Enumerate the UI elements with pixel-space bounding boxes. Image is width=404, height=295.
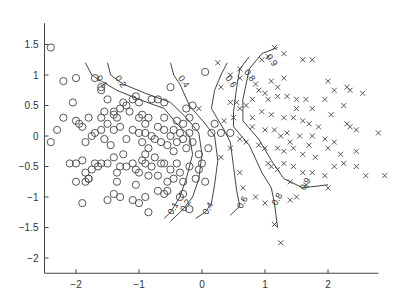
cross-marker [332, 164, 337, 169]
circle-marker [123, 135, 130, 142]
cross-marker [300, 152, 305, 157]
contour-label: 0.2 [113, 73, 128, 89]
cross-marker [250, 115, 255, 120]
cross-marker [266, 97, 271, 102]
cross-marker [275, 146, 280, 151]
cross-marker [348, 88, 353, 93]
circle-marker [69, 99, 76, 106]
circle-marker [101, 108, 108, 115]
cross-marker [263, 91, 268, 96]
circle-marker [113, 178, 120, 185]
circle-marker [104, 96, 111, 103]
data-points [47, 44, 387, 245]
circle-marker [205, 145, 212, 152]
cross-marker [288, 198, 293, 203]
circle-marker [117, 105, 124, 112]
cross-marker [341, 161, 346, 166]
x-tick-label: 1 [262, 279, 268, 290]
cross-marker [237, 170, 242, 175]
cross-marker [215, 60, 220, 65]
circle-marker [217, 129, 224, 136]
y-tick-label: 1.5 [25, 39, 39, 50]
contour-label: 0.4 [176, 73, 191, 89]
circle-marker [211, 120, 218, 127]
cross-marker [244, 140, 249, 145]
circle-marker [167, 84, 174, 91]
cross-marker [303, 97, 308, 102]
cross-marker [332, 88, 337, 93]
cross-marker [278, 240, 283, 245]
cross-marker [322, 97, 327, 102]
circle-marker [98, 126, 105, 133]
contour-line-0-4 [171, 63, 218, 219]
circle-marker [164, 142, 171, 149]
cross-marker [363, 173, 368, 178]
cross-marker [300, 57, 305, 62]
cross-marker [275, 94, 280, 99]
circle-marker [227, 129, 234, 136]
cross-marker [288, 140, 293, 145]
cross-marker [281, 161, 286, 166]
cross-marker [237, 106, 242, 111]
cross-marker [263, 127, 268, 132]
circle-marker [192, 175, 199, 182]
circle-marker [145, 172, 152, 179]
cross-marker [291, 164, 296, 169]
cross-marker [275, 85, 280, 90]
contour-line-0-9 [243, 48, 328, 188]
circle-marker [154, 187, 161, 194]
cross-marker [297, 134, 302, 139]
circle-marker [129, 196, 136, 203]
y-tick-label: −2 [27, 253, 39, 264]
cross-marker [354, 127, 359, 132]
cross-marker [348, 124, 353, 129]
cross-marker [222, 118, 227, 123]
cross-marker [310, 106, 315, 111]
cross-marker [259, 57, 264, 62]
contour-label: 0.8 [270, 191, 285, 207]
x-tick-label: −2 [70, 279, 82, 290]
circle-marker [170, 148, 177, 155]
cross-marker [316, 124, 321, 129]
contour-label: 0.8 [242, 67, 257, 83]
cross-marker [326, 146, 331, 151]
x-tick-label: 0 [199, 279, 205, 290]
circle-marker [60, 78, 67, 85]
cross-marker [354, 164, 359, 169]
y-tick-label: −1.5 [19, 222, 39, 233]
circle-marker [161, 114, 168, 121]
y-tick-label: −0.5 [19, 161, 39, 172]
cross-marker [310, 170, 315, 175]
circle-marker [139, 139, 146, 146]
circle-marker [107, 142, 114, 149]
circle-marker [183, 145, 190, 152]
cross-marker [291, 115, 296, 120]
y-tick-label: 0.5 [25, 100, 39, 111]
cross-marker [382, 173, 387, 178]
y-tick-label: 1 [33, 70, 39, 81]
circle-marker [85, 114, 92, 121]
contour-label: 0.1 [94, 73, 109, 89]
circle-marker [104, 196, 111, 203]
cross-marker [240, 185, 245, 190]
circle-marker [101, 135, 108, 142]
circle-marker [145, 114, 152, 121]
cross-marker [326, 79, 331, 84]
circle-marker [164, 178, 171, 185]
y-tick-label: 0 [33, 131, 39, 142]
cross-marker [250, 124, 255, 129]
circle-marker [132, 181, 139, 188]
cross-marker [326, 185, 331, 190]
circle-marker [82, 139, 89, 146]
cross-marker [253, 195, 258, 200]
cross-marker [269, 112, 274, 117]
circle-marker [208, 129, 215, 136]
cross-marker [259, 109, 264, 114]
circle-marker [195, 151, 202, 158]
circle-marker [167, 132, 174, 139]
cross-marker [294, 97, 299, 102]
circle-marker [117, 123, 124, 130]
cross-marker [341, 103, 346, 108]
circle-marker [47, 44, 54, 51]
circle-marker [167, 166, 174, 173]
